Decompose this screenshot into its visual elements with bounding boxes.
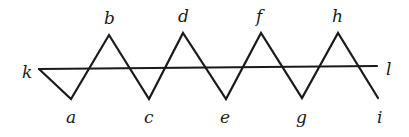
label-k: k [22,62,32,82]
label-d: d [178,6,189,26]
label-b: b [104,8,115,28]
zigzag-diagram: k a b c d e f g h i l [0,0,409,137]
label-g: g [296,107,307,127]
label-c: c [144,107,154,127]
label-f: f [254,6,265,26]
label-l: l [386,59,391,79]
label-i: i [377,107,382,127]
label-a: a [66,107,76,127]
label-h: h [332,6,343,26]
label-e: e [220,107,230,127]
